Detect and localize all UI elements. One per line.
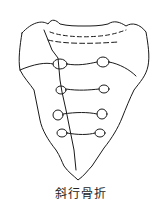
sacrum-drawing xyxy=(0,0,162,202)
sacrum-outline xyxy=(19,20,149,180)
fracture-line xyxy=(44,30,76,170)
figure-caption: 斜行骨折 xyxy=(0,184,162,201)
sacrum-illustration xyxy=(0,0,162,202)
